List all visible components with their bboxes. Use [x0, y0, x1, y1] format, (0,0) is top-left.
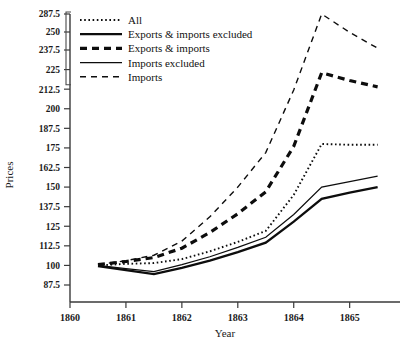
y-tick-label: 187.5	[39, 124, 61, 134]
y-tick-label: 150	[46, 182, 61, 192]
y-tick-label: 87.5	[43, 280, 60, 290]
y-tick-label: 212.5	[39, 85, 61, 95]
series-line-exports-imports	[98, 73, 378, 265]
legend-label-imports-excluded: Imports excluded	[128, 57, 205, 69]
y-tick-label: 200	[46, 104, 61, 114]
x-axis-ticks: 186018611862186318641865	[60, 302, 360, 323]
y-tick-label: 287.5	[39, 9, 61, 19]
x-tick-label: 1861	[116, 312, 136, 323]
y-tick-label: 175	[46, 143, 61, 153]
y-axis-ticks: 87.5100112.5125137.5150162.5175187.52002…	[39, 9, 70, 290]
y-tick-label: 225	[46, 65, 61, 75]
legend-label-exports-imports-excluded: Exports & imports excluded	[128, 28, 253, 40]
legend-label-imports: Imports	[128, 71, 162, 83]
chart-legend: AllExports & imports excludedExports & i…	[66, 12, 253, 85]
price-index-line-chart: 87.5100112.5125137.5150162.5175187.52002…	[0, 0, 405, 344]
legend-label-all: All	[128, 14, 142, 26]
chart-canvas: 87.5100112.5125137.5150162.5175187.52002…	[0, 0, 405, 344]
y-tick-label: 112.5	[39, 241, 60, 251]
y-tick-label: 250	[46, 27, 61, 37]
y-tick-label: 137.5	[39, 202, 61, 212]
x-axis-title: Year	[215, 327, 236, 339]
x-tick-label: 1865	[340, 312, 360, 323]
x-tick-label: 1862	[172, 312, 192, 323]
y-tick-label: 162.5	[39, 163, 61, 173]
x-tick-label: 1863	[228, 312, 248, 323]
series-line-imports-excluded	[98, 176, 378, 272]
y-tick-label: 237.5	[39, 45, 61, 55]
legend-label-exports-imports: Exports & imports	[128, 42, 210, 54]
y-axis-title: Prices	[3, 162, 15, 189]
y-tick-label: 100	[46, 261, 61, 271]
y-tick-label: 125	[46, 222, 61, 232]
x-tick-label: 1860	[60, 312, 80, 323]
x-tick-label: 1864	[284, 312, 304, 323]
